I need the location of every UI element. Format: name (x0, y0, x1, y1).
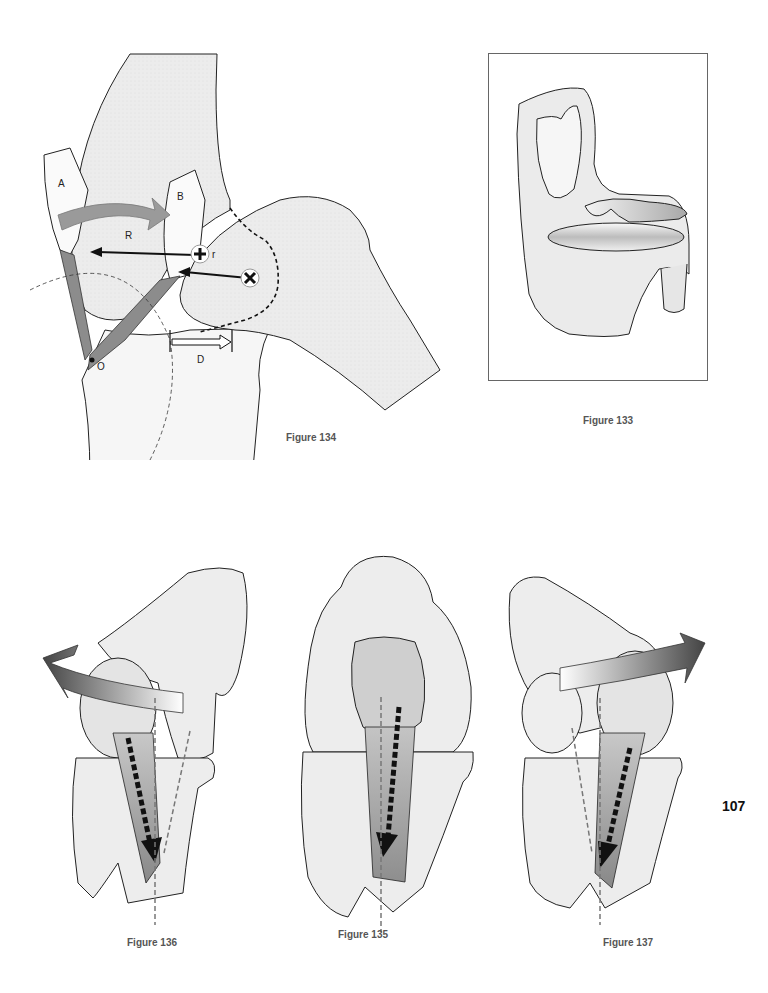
label-o: O (97, 361, 105, 372)
figure-135 (293, 547, 483, 937)
label-r-upper: R (125, 230, 132, 241)
knee-lateral-diagram: A B R r D O (30, 40, 480, 460)
figure-136 (38, 563, 258, 928)
fibula-3d (661, 264, 687, 313)
label-b: B (177, 191, 184, 202)
patellar-joint-3d (489, 54, 707, 380)
knee-external-rotation (500, 563, 710, 928)
label-a: A (58, 178, 65, 189)
patella-135 (351, 637, 424, 736)
caption-fig134: Figure 134 (286, 432, 336, 443)
figure-134: A B R r D O (30, 40, 480, 460)
caption-fig136: Figure 136 (127, 937, 177, 948)
figure-133 (488, 53, 708, 381)
label-d: D (197, 354, 204, 365)
caption-fig137: Figure 137 (603, 937, 653, 948)
origin-point-icon (90, 358, 95, 363)
caption-fig135: Figure 135 (338, 929, 388, 940)
caption-fig133: Figure 133 (583, 415, 633, 426)
figure-137 (500, 563, 710, 928)
page-number: 107 (722, 798, 745, 814)
knee-anterior-view (293, 547, 483, 937)
knee-internal-rotation (38, 563, 258, 928)
meniscus-3d (548, 223, 684, 251)
